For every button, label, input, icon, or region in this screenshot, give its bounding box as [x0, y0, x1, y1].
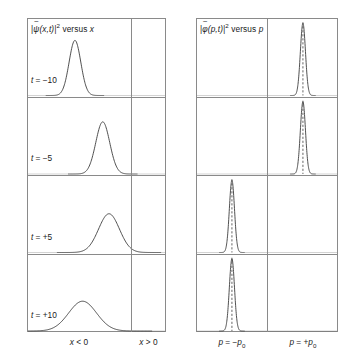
- position-space-panel: |~ψ(x,t)|2 versus x t = −10 t = −5 t = +…: [27, 18, 166, 332]
- time-label-row-2: t = −5: [31, 153, 52, 163]
- physics-figure: |~ψ(x,t)|2 versus x t = −10 t = −5 t = +…: [0, 0, 353, 362]
- time-label-row-1: t = −10: [31, 75, 57, 85]
- row-separator: [27, 254, 166, 255]
- gaussian-curve: [46, 40, 104, 95]
- x-positive-label: x > 0: [118, 337, 178, 347]
- origin-divider: [267, 18, 268, 332]
- momentum-space-panel: |~φ(p,t)|2 versus p: [196, 18, 338, 332]
- gaussian-curve: [57, 214, 161, 253]
- origin-divider: [131, 18, 132, 332]
- gaussian-curve: [68, 122, 138, 174]
- x-negative-label: x < 0: [49, 337, 109, 347]
- time-label-row-4: t = +10: [31, 310, 57, 320]
- position-space-title: |~ψ(x,t)|2 versus x: [31, 22, 94, 34]
- row-separator: [27, 97, 166, 98]
- row-separator: [27, 175, 166, 176]
- p-negative-label: p = −p0: [200, 337, 264, 349]
- p-positive-label: p = +p0: [271, 337, 335, 349]
- time-label-row-3: t = +5: [31, 232, 52, 242]
- momentum-space-title: |~φ(p,t)|2 versus p: [200, 22, 263, 34]
